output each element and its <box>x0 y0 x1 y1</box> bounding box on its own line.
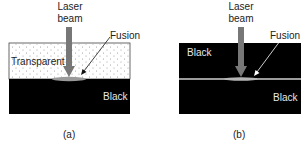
laser-beam-label-b: Laser beam <box>228 1 254 25</box>
transparent-layer-label: Transparent <box>11 56 65 67</box>
fusion-zone <box>224 77 258 81</box>
laser-label-line1: Laser <box>228 1 254 13</box>
black-layer-bottom-label: Black <box>273 92 297 103</box>
laser-label-line1: Laser <box>57 1 83 13</box>
black-layer-label-a: Black <box>103 91 127 102</box>
laser-welding-diagram <box>0 0 307 153</box>
laser-label-line2: beam <box>57 13 83 25</box>
caption-a: (a) <box>63 129 75 140</box>
fusion-zone <box>52 77 86 81</box>
caption-b: (b) <box>233 129 245 140</box>
laser-label-line2: beam <box>228 13 254 25</box>
fusion-label-a: Fusion <box>110 30 140 41</box>
laser-beam-label-a: Laser beam <box>57 1 83 25</box>
black-layer-top-label: Black <box>187 47 211 58</box>
fusion-label-b: Fusion <box>270 30 300 41</box>
